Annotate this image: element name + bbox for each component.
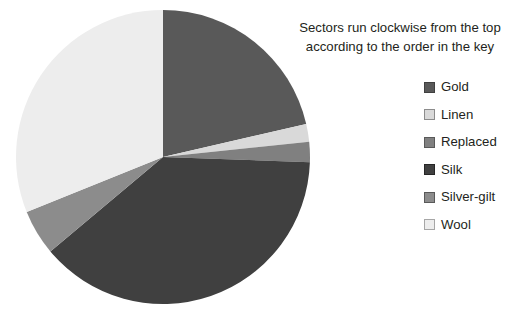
legend-swatch-replaced <box>424 137 435 148</box>
caption-line-1: Sectors run clockwise from the top <box>286 18 514 37</box>
legend-label-wool: Wool <box>441 218 471 231</box>
legend-swatch-gold <box>424 82 435 93</box>
legend-swatch-linen <box>424 109 435 120</box>
legend-item-gold[interactable]: Gold <box>424 80 497 94</box>
legend-swatch-silver-gilt <box>424 192 435 203</box>
legend-label-replaced: Replaced <box>441 135 497 148</box>
legend-item-silver-gilt[interactable]: Silver-gilt <box>424 190 497 204</box>
legend-swatch-silk <box>424 164 435 175</box>
legend-item-linen[interactable]: Linen <box>424 108 497 122</box>
legend-item-replaced[interactable]: Replaced <box>424 135 497 149</box>
legend-swatch-wool <box>424 219 435 230</box>
legend-label-silver-gilt: Silver-gilt <box>441 190 495 203</box>
legend-label-gold: Gold <box>441 80 469 93</box>
chart-legend: Gold Linen Replaced Silk Silver-gilt Woo… <box>424 80 497 232</box>
chart-caption: Sectors run clockwise from the top accor… <box>286 18 514 56</box>
legend-item-silk[interactable]: Silk <box>424 163 497 177</box>
legend-label-silk: Silk <box>441 163 462 176</box>
caption-line-2: according to the order in the key <box>286 37 514 56</box>
legend-item-wool[interactable]: Wool <box>424 218 497 232</box>
pie-chart-figure: Sectors run clockwise from the top accor… <box>0 0 519 318</box>
legend-label-linen: Linen <box>441 108 473 121</box>
pie-plot-area <box>0 0 330 318</box>
pie-svg <box>0 0 330 318</box>
